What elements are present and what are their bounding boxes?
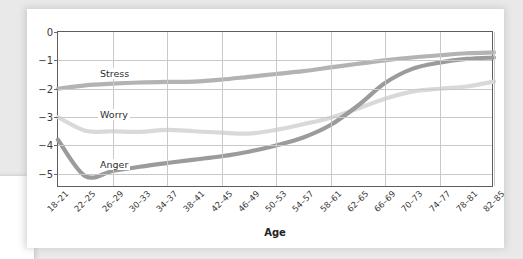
x-axis-label: 62–65 bbox=[343, 190, 368, 215]
grid-line-horizontal bbox=[58, 60, 492, 61]
grid-line-vertical bbox=[331, 32, 332, 186]
y-axis-label: −2 bbox=[38, 83, 53, 94]
y-axis-tick bbox=[54, 145, 58, 146]
chart-card: −5−4−3−2−1018–2122–2526–2930–3334–3738–4… bbox=[27, 9, 504, 248]
x-axis-label: 46–49 bbox=[234, 190, 259, 215]
x-axis-label: 78–81 bbox=[452, 190, 477, 215]
x-axis-label: 50–53 bbox=[262, 190, 287, 215]
y-axis-label: −3 bbox=[38, 112, 53, 123]
x-axis-label: 18–21 bbox=[44, 190, 69, 215]
x-axis-label: 38–41 bbox=[180, 190, 205, 215]
grid-line-horizontal bbox=[58, 145, 492, 146]
grid-line-horizontal bbox=[58, 89, 492, 90]
x-axis-label: 70–73 bbox=[398, 190, 423, 215]
y-axis-label: −1 bbox=[38, 55, 53, 66]
grid-line-vertical bbox=[494, 32, 495, 186]
x-axis-label: 66–69 bbox=[371, 190, 396, 215]
y-axis-label: −5 bbox=[38, 168, 53, 179]
y-axis-tick bbox=[54, 117, 58, 118]
x-axis-title: Age bbox=[57, 227, 493, 238]
plot-area: −5−4−3−2−1018–2122–2526–2930–3334–3738–4… bbox=[57, 31, 493, 187]
x-axis-label: 34–37 bbox=[153, 190, 178, 215]
x-axis-label: 74–77 bbox=[425, 190, 450, 215]
x-axis-label: 54–57 bbox=[289, 190, 314, 215]
grid-line-vertical bbox=[276, 32, 277, 186]
x-axis-label: 82–85 bbox=[480, 190, 505, 215]
grid-line-vertical bbox=[222, 32, 223, 186]
series-label-worry: Worry bbox=[98, 109, 130, 120]
x-axis-label: 42–45 bbox=[207, 190, 232, 215]
grid-line-vertical bbox=[440, 32, 441, 186]
y-axis-tick bbox=[54, 60, 58, 61]
grid-line-horizontal bbox=[58, 174, 492, 175]
y-axis-tick bbox=[54, 89, 58, 90]
x-axis-label: 30–33 bbox=[125, 190, 150, 215]
x-axis-label: 22–25 bbox=[71, 190, 96, 215]
x-axis-label: 58–61 bbox=[316, 190, 341, 215]
y-axis-label: 0 bbox=[47, 27, 53, 38]
y-axis-tick bbox=[54, 174, 58, 175]
y-axis-label: −4 bbox=[38, 140, 53, 151]
x-axis-label: 26–29 bbox=[98, 190, 123, 215]
series-label-anger: Anger bbox=[98, 159, 130, 170]
grid-line-vertical bbox=[385, 32, 386, 186]
y-axis-tick bbox=[54, 32, 58, 33]
series-label-stress: Stress bbox=[98, 68, 131, 79]
grid-line-vertical bbox=[167, 32, 168, 186]
